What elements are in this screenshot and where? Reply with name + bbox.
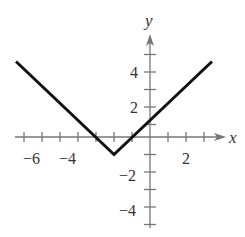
x-tick-label: −6 (23, 150, 40, 167)
x-tick-label: 2 (182, 150, 190, 167)
y-tick-label: 2 (130, 99, 138, 116)
y-tick-label: −4 (119, 202, 136, 219)
y-tick-label: 4 (130, 64, 138, 81)
coordinate-plane: x y −6 −4 2 4 2 −2 −4 (0, 0, 245, 237)
x-axis (15, 132, 220, 142)
y-axis (144, 40, 156, 228)
x-tick-label: −4 (59, 150, 76, 167)
x-axis-label: x (228, 128, 237, 147)
y-tick-label: −2 (119, 167, 136, 184)
y-axis-label: y (143, 11, 153, 30)
